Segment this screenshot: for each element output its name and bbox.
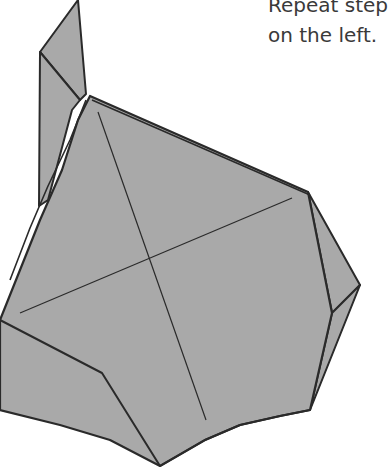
origami-diagram: [0, 0, 381, 474]
